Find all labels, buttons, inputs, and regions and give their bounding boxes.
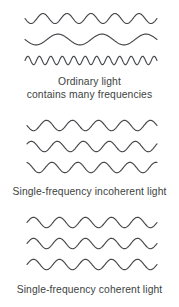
wave-phase-a-icon — [0, 115, 179, 136]
caption-ordinary-light: Ordinary lightcontains many frequencies — [0, 76, 179, 101]
wave-phase-c-icon — [0, 157, 179, 178]
caption-line: Ordinary light — [0, 76, 179, 89]
panel-coherent-light: Single-frequency coherent light — [0, 212, 179, 297]
wave-row — [0, 136, 179, 157]
caption-line: Single-frequency coherent light — [0, 284, 179, 297]
caption-line: Single-frequency incoherent light — [0, 186, 179, 199]
wave-row — [0, 8, 179, 29]
wave-stack-coherent — [0, 212, 179, 275]
wave-medium-frequency-icon — [0, 8, 179, 29]
wave-in-phase-1-icon — [0, 212, 179, 233]
wave-row — [0, 233, 179, 254]
caption-coherent-light: Single-frequency coherent light — [0, 284, 179, 297]
wave-path — [27, 238, 157, 248]
panel-ordinary-light: Ordinary lightcontains many frequencies — [0, 8, 179, 101]
wave-stack-incoherent — [0, 115, 179, 178]
wave-row — [0, 29, 179, 50]
wave-path — [27, 141, 157, 151]
wave-high-frequency-icon — [0, 50, 179, 71]
panel-incoherent-light: Single-frequency incoherent light — [0, 115, 179, 199]
wave-path — [25, 34, 157, 45]
wave-in-phase-3-icon — [0, 254, 179, 275]
wave-low-frequency-icon — [0, 29, 179, 50]
wave-in-phase-2-icon — [0, 233, 179, 254]
wave-phase-b-icon — [0, 136, 179, 157]
wave-path — [27, 217, 157, 227]
wave-path — [25, 14, 157, 24]
wave-path — [27, 120, 157, 130]
caption-incoherent-light: Single-frequency incoherent light — [0, 186, 179, 199]
wave-row — [0, 212, 179, 233]
light-coherence-figure: Ordinary lightcontains many frequencies … — [0, 0, 179, 307]
wave-row — [0, 115, 179, 136]
wave-stack-ordinary — [0, 8, 179, 71]
wave-row — [0, 254, 179, 275]
caption-line: contains many frequencies — [0, 89, 179, 102]
wave-path — [27, 259, 157, 269]
wave-row — [0, 157, 179, 178]
wave-row — [0, 50, 179, 71]
wave-path — [27, 162, 157, 172]
wave-path — [25, 56, 157, 64]
